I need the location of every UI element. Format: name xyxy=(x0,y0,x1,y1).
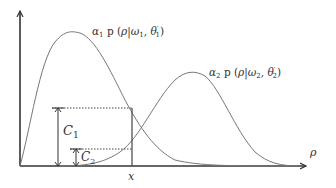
c1-label: C1 xyxy=(63,123,79,140)
x-axis-label-rho: ρ xyxy=(309,146,317,159)
curve-2-label: α2 p (ρ|ω2, θ′2) xyxy=(209,66,281,80)
curve-1-label: α1 p (ρ|ω1, θ′1) xyxy=(92,25,164,39)
c2-label: C2 xyxy=(81,150,95,166)
x-marker-label: x xyxy=(128,170,135,183)
curve-component-2 xyxy=(60,72,300,166)
mixture-density-diagram: C1 C2 x ρ α1 p (ρ|ω1, θ′1) α2 p (ρ|ω2, θ… xyxy=(0,0,336,188)
